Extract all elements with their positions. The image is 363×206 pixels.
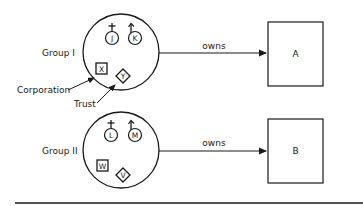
ownership-diagram: Group I J K X Y Corporation Trus [0,0,363,206]
individual-l-letter: L [109,131,114,140]
individual-l: L [105,120,118,142]
group-2: Group II L M W V owns [42,112,323,188]
group-1-relation: owns [202,41,226,51]
target-a-label: A [292,49,299,59]
entity-v: V [116,168,130,182]
trust-callout: Trust [73,99,96,109]
entity-x-letter: X [99,65,104,74]
entity-y-trust: Y [116,69,130,83]
individual-k-letter: K [133,34,139,43]
group-2-label: Group II [42,146,78,156]
group-2-relation: owns [202,138,226,148]
individual-m-letter: M [132,131,138,140]
individual-m: M [129,121,142,142]
individual-j: J [106,23,119,45]
corporation-pointer-icon [68,78,94,90]
entity-y-letter: Y [120,72,126,81]
group-1: Group I J K X Y Corporation Trus [17,14,323,109]
group-1-label: Group I [42,48,75,58]
individual-k: K [129,24,142,45]
target-b-label: B [292,146,298,156]
entity-x-corporation: X [96,63,107,74]
entity-v-letter: V [120,171,126,180]
individual-j-letter: J [110,34,113,43]
corporation-callout: Corporation [17,85,70,95]
entity-w-letter: W [99,162,107,171]
entity-w: W [97,160,108,171]
trust-pointer-icon [97,85,115,103]
